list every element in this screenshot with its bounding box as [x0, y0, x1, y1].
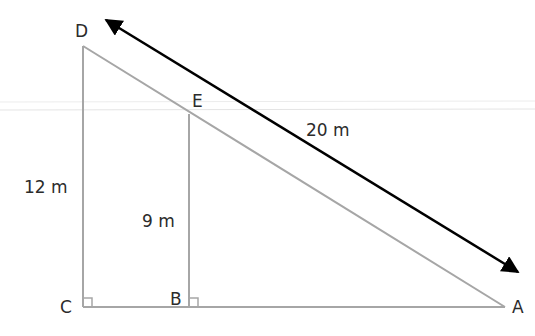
point-label-c: C	[60, 297, 72, 317]
triangle-dca	[83, 46, 505, 307]
double-arrow-da-icon	[106, 20, 518, 272]
similar-triangles-diagram: D E C B A 20 m 12 m 9 m	[0, 0, 535, 336]
measure-dc-label: 12 m	[24, 177, 68, 197]
measure-da-label: 20 m	[306, 120, 350, 140]
point-label-d: D	[75, 21, 88, 41]
point-label-b: B	[170, 289, 182, 309]
point-label-e: E	[192, 91, 203, 111]
right-angle-c-icon	[83, 298, 92, 307]
hypotenuse-da	[83, 46, 505, 307]
measure-eb-label: 9 m	[142, 211, 175, 231]
point-label-a: A	[512, 297, 524, 317]
right-angle-b-icon	[189, 298, 198, 307]
faint-guide-lines	[0, 101, 535, 110]
